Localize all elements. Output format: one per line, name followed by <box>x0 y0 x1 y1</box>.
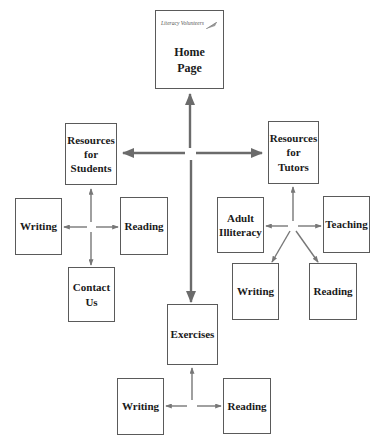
home-page-node[interactable]: Literacy Volunteers Home Page <box>155 10 224 89</box>
students-reading-label: Reading <box>124 219 163 233</box>
resources-for-students-label: Resources for Students <box>67 133 114 176</box>
exercises-writing-label: Writing <box>122 399 159 413</box>
tutors-hub-arrows <box>266 187 321 262</box>
resources-for-students-node[interactable]: Resources for Students <box>65 123 117 185</box>
home-page-title: Home Page <box>174 45 205 76</box>
exercises-node[interactable]: Exercises <box>167 304 218 365</box>
students-reading-node[interactable]: Reading <box>120 197 168 255</box>
tutors-writing-node[interactable]: Writing <box>232 263 279 320</box>
resources-for-tutors-label: Resources for Tutors <box>270 131 317 174</box>
students-writing-node[interactable]: Writing <box>15 198 62 255</box>
tutors-reading-label: Reading <box>313 284 352 298</box>
quill-pen-icon <box>206 15 218 31</box>
tutors-reading-node[interactable]: Reading <box>309 263 357 320</box>
exercises-hub-arrows <box>166 368 221 406</box>
contact-us-node[interactable]: Contact Us <box>68 267 115 322</box>
adult-illiteracy-node[interactable]: Adult Illiteracy <box>217 197 264 253</box>
brand-text: Literacy Volunteers <box>161 20 204 27</box>
contact-us-label: Contact Us <box>73 280 110 309</box>
teaching-node[interactable]: Teaching <box>323 196 370 253</box>
exercises-writing-node[interactable]: Writing <box>117 378 164 435</box>
exercises-reading-node[interactable]: Reading <box>223 378 271 434</box>
teaching-label: Teaching <box>325 217 367 231</box>
students-writing-label: Writing <box>20 219 57 233</box>
brand-header: Literacy Volunteers <box>156 15 223 31</box>
exercises-reading-label: Reading <box>227 399 266 413</box>
exercises-label: Exercises <box>171 327 215 341</box>
resources-for-tutors-node[interactable]: Resources for Tutors <box>268 121 319 184</box>
students-hub-arrows <box>64 189 118 265</box>
tutors-writing-label: Writing <box>237 284 274 298</box>
adult-illiteracy-label: Adult Illiteracy <box>219 211 262 240</box>
